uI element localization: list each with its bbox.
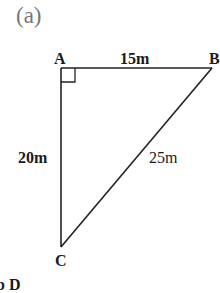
- right-angle-marker: [61, 68, 75, 82]
- part-label: (a): [16, 4, 42, 27]
- side-ac-length: 20m: [18, 150, 47, 166]
- vertex-c-label: C: [55, 253, 67, 269]
- side-bc: [61, 68, 212, 247]
- side-bc-length: 25m: [149, 150, 177, 166]
- side-ab-length: 15m: [120, 51, 149, 67]
- cut-off-caption: b D: [0, 277, 20, 293]
- vertex-a-label: A: [54, 51, 66, 67]
- vertex-b-label: B: [209, 51, 220, 67]
